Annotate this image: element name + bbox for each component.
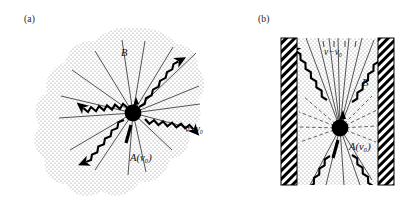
- panel-a: [34, 28, 204, 196]
- label-source-a: A(ν₀): [129, 152, 152, 164]
- label-shifted-a: ν−ν₀: [185, 124, 203, 134]
- panel-b: [281, 38, 394, 196]
- stipple-cloud-a: [34, 28, 204, 196]
- label-source-b: A(ν₀): [348, 141, 371, 153]
- scatterer-a: [125, 105, 142, 122]
- label-b-field-a: B: [121, 47, 128, 58]
- panel-label-a: (a): [24, 14, 35, 24]
- scatterer-b: [332, 120, 349, 137]
- figure-svg: B A(ν₀) ν−ν₀ ν−ν₀ B A(ν₀): [0, 0, 414, 220]
- label-b-field-b: B: [362, 77, 369, 88]
- label-shifted-b: ν−ν₀: [324, 47, 342, 57]
- panel-label-b: (b): [258, 14, 270, 24]
- figure-canvas: B A(ν₀) ν−ν₀ ν−ν₀ B A(ν₀) (a) (b): [0, 0, 414, 220]
- wall-right: [378, 38, 394, 185]
- wall-left: [281, 38, 297, 185]
